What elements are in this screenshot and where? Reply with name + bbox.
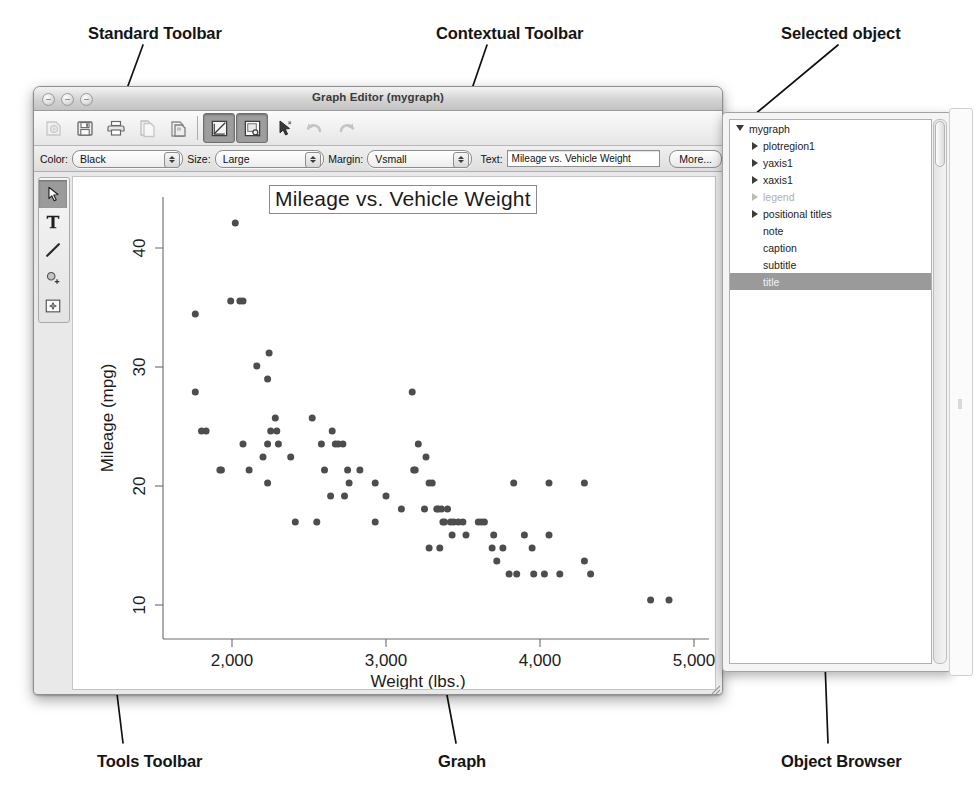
scatter-point[interactable] xyxy=(327,493,334,500)
scatter-point[interactable] xyxy=(541,571,548,578)
chevron-right-icon[interactable] xyxy=(752,210,758,218)
scatter-point[interactable] xyxy=(444,506,451,513)
scatter-point[interactable] xyxy=(481,519,488,526)
scatter-point[interactable] xyxy=(493,558,500,565)
scatter-point[interactable] xyxy=(546,480,553,487)
scatter-point[interactable] xyxy=(216,467,223,474)
text-input[interactable]: Mileage vs. Vehicle Weight xyxy=(507,150,661,167)
scatter-point[interactable] xyxy=(232,220,239,227)
scatter-point[interactable] xyxy=(240,298,247,305)
scatter-point[interactable] xyxy=(587,571,594,578)
margin-select[interactable]: Vsmall xyxy=(367,150,472,168)
scatter-point[interactable] xyxy=(246,467,253,474)
scatter-point[interactable] xyxy=(412,467,419,474)
scatter-point[interactable] xyxy=(267,428,274,435)
scrollbar-thumb[interactable] xyxy=(935,121,945,167)
save-icon[interactable] xyxy=(70,114,100,142)
scatter-point[interactable] xyxy=(264,441,271,448)
color-select[interactable]: Black xyxy=(72,150,183,168)
scatter-point[interactable] xyxy=(341,493,348,500)
tree-item-plotregion1[interactable]: plotregion1 xyxy=(730,137,931,154)
paste-icon[interactable] xyxy=(163,114,193,142)
scatter-point[interactable] xyxy=(321,467,328,474)
tree-item-mygraph[interactable]: mygraph xyxy=(730,120,931,137)
scatter-point[interactable] xyxy=(372,519,379,526)
tree-item-subtitle[interactable]: subtitle xyxy=(730,256,931,273)
scatter-point[interactable] xyxy=(260,454,267,461)
chevron-right-icon[interactable] xyxy=(752,176,758,184)
scatter-point[interactable] xyxy=(529,545,536,552)
scatter-point[interactable] xyxy=(273,428,280,435)
copy-icon[interactable] xyxy=(132,114,162,142)
chevron-right-icon[interactable] xyxy=(752,193,758,201)
color-stepper[interactable] xyxy=(164,152,180,168)
tree-item-positional-titles[interactable]: positional titles xyxy=(730,205,931,222)
scatter-point[interactable] xyxy=(409,389,416,396)
line-tool-icon[interactable] xyxy=(39,236,67,264)
scatter-point[interactable] xyxy=(449,532,456,539)
scatter-point[interactable] xyxy=(438,506,445,513)
scatter-point[interactable] xyxy=(309,415,316,422)
window-resize-handle[interactable] xyxy=(708,682,721,695)
scatter-point[interactable] xyxy=(227,298,234,305)
object-browser-scrollbar[interactable] xyxy=(933,119,947,664)
scatter-point[interactable] xyxy=(272,415,279,422)
scatter-point[interactable] xyxy=(581,480,588,487)
scatter-point[interactable] xyxy=(287,454,294,461)
tree-item-yaxis1[interactable]: yaxis1 xyxy=(730,154,931,171)
preview-icon[interactable] xyxy=(236,113,268,143)
scatter-point[interactable] xyxy=(329,428,336,435)
size-select[interactable]: Large xyxy=(215,150,325,168)
object-tree[interactable]: mygraphplotregion1yaxis1xaxis1legendposi… xyxy=(729,119,932,664)
scatter-point[interactable] xyxy=(426,545,433,552)
open-icon[interactable] xyxy=(39,114,69,142)
scatter-point[interactable] xyxy=(546,532,553,539)
scatter-point[interactable] xyxy=(192,389,199,396)
scatter-point[interactable] xyxy=(429,480,436,487)
scatter-point[interactable] xyxy=(510,480,517,487)
pointer-icon[interactable] xyxy=(269,114,299,142)
scatter-point[interactable] xyxy=(666,597,673,604)
tree-item-caption[interactable]: caption xyxy=(730,239,931,256)
scatter-point[interactable] xyxy=(506,571,513,578)
scatter-point[interactable] xyxy=(292,519,299,526)
scatter-point[interactable] xyxy=(372,480,379,487)
scatter-point[interactable] xyxy=(346,480,353,487)
scatter-point[interactable] xyxy=(489,545,496,552)
scatter-point[interactable] xyxy=(499,545,506,552)
scatter-point[interactable] xyxy=(421,506,428,513)
text-tool-icon[interactable] xyxy=(39,208,67,236)
scatter-point[interactable] xyxy=(264,480,271,487)
scatter-point[interactable] xyxy=(398,506,405,513)
size-stepper[interactable] xyxy=(305,152,321,168)
tree-item-note[interactable]: note xyxy=(730,222,931,239)
tree-item-title[interactable]: title xyxy=(730,273,931,290)
scatter-point[interactable] xyxy=(521,532,528,539)
scatter-point[interactable] xyxy=(240,441,247,448)
scatter-point[interactable] xyxy=(556,571,563,578)
window-titlebar[interactable]: Graph Editor (mygraph) xyxy=(34,87,722,111)
undo-icon[interactable] xyxy=(300,114,330,142)
scatter-point[interactable] xyxy=(339,441,346,448)
redo-icon[interactable] xyxy=(331,114,361,142)
scatter-point[interactable] xyxy=(253,363,260,370)
marker-tool-icon[interactable] xyxy=(39,264,67,292)
scatter-point[interactable] xyxy=(318,441,325,448)
scatter-point[interactable] xyxy=(441,519,448,526)
scatter-point[interactable] xyxy=(275,441,282,448)
scatter-point[interactable] xyxy=(313,519,320,526)
scatter-point[interactable] xyxy=(581,558,588,565)
scatter-point[interactable] xyxy=(459,519,466,526)
tree-item-xaxis1[interactable]: xaxis1 xyxy=(730,171,931,188)
grid-tool-icon[interactable] xyxy=(39,292,67,320)
scatter-point[interactable] xyxy=(436,545,443,552)
chevron-right-icon[interactable] xyxy=(752,142,758,150)
pointer-tool-icon[interactable] xyxy=(39,180,67,208)
print-icon[interactable] xyxy=(101,114,131,142)
scatter-point[interactable] xyxy=(356,467,363,474)
scatter-point[interactable] xyxy=(383,493,390,500)
scatter-point[interactable] xyxy=(266,350,273,357)
scatter-point[interactable] xyxy=(423,454,430,461)
scatter-point[interactable] xyxy=(513,571,520,578)
scatter-point[interactable] xyxy=(463,532,470,539)
